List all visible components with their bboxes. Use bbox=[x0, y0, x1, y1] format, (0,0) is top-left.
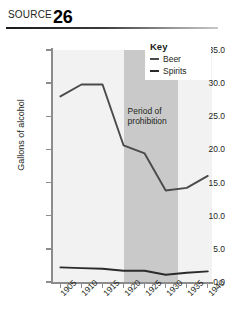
legend-title: Key bbox=[150, 41, 207, 52]
legend-item-beer: Beer bbox=[150, 54, 207, 64]
source-header: SOURCE 26 bbox=[0, 0, 225, 34]
legend-item-spirits: Spirits bbox=[150, 66, 207, 76]
y-tick bbox=[46, 281, 51, 282]
legend-label: Spirits bbox=[163, 66, 187, 76]
source-number: 26 bbox=[53, 7, 72, 28]
alcohol-consumption-line-chart: Period of prohibition 0.05.010.015.020.0… bbox=[0, 34, 225, 317]
prohibition-annotation: Period of prohibition bbox=[128, 106, 167, 126]
series-line-beer bbox=[60, 84, 207, 190]
y-tick-label: 5.0 bbox=[181, 244, 225, 254]
y-tick-label: 20.0 bbox=[181, 144, 225, 154]
y-tick bbox=[46, 82, 51, 83]
y-tick bbox=[46, 248, 51, 249]
source-label: SOURCE bbox=[8, 9, 52, 20]
legend-label: Beer bbox=[163, 54, 181, 64]
legend-items: BeerSpirits bbox=[150, 54, 207, 76]
prohibition-annotation-line1: Period of bbox=[128, 106, 167, 116]
y-tick bbox=[46, 215, 51, 216]
y-axis bbox=[51, 48, 53, 284]
y-tick-label: 15.0 bbox=[181, 178, 225, 188]
y-tick bbox=[46, 49, 51, 50]
y-tick bbox=[46, 149, 51, 150]
y-tick bbox=[46, 182, 51, 183]
header-divider bbox=[6, 27, 218, 29]
legend-swatch-spirits bbox=[150, 70, 159, 72]
y-tick bbox=[46, 116, 51, 117]
series-line-spirits bbox=[60, 267, 207, 274]
prohibition-annotation-line2: prohibition bbox=[128, 116, 167, 126]
y-tick-label: 10.0 bbox=[181, 211, 225, 221]
legend-swatch-beer bbox=[150, 58, 159, 60]
y-tick-label: 25.0 bbox=[181, 111, 225, 121]
y-axis-title: Gallons of alcohol bbox=[16, 87, 26, 183]
chart-legend: Key BeerSpirits bbox=[145, 38, 211, 80]
